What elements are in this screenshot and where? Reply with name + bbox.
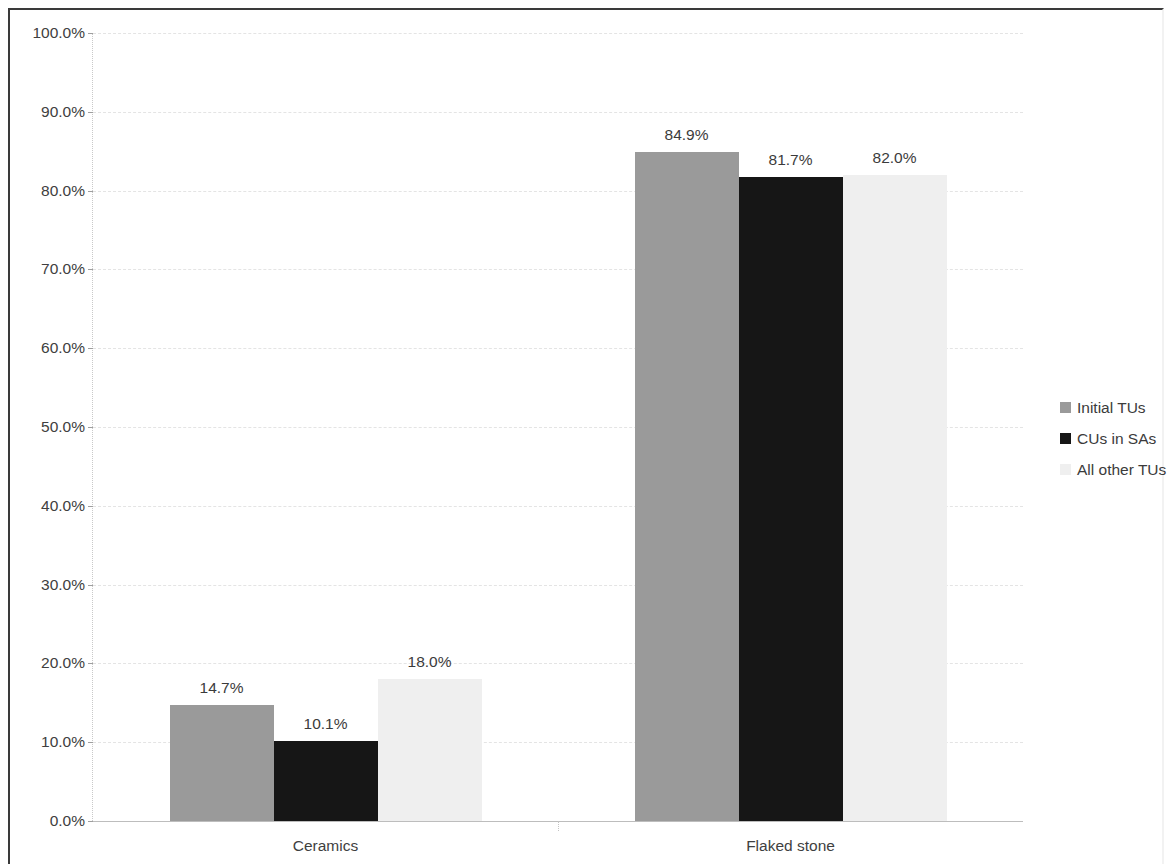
y-axis-tick-label: 40.0%: [0, 497, 85, 515]
bar-value-label: 82.0%: [873, 149, 917, 167]
bar-ceramics-all-other-tus[interactable]: [378, 679, 482, 821]
legend-item-label: Initial TUs: [1077, 399, 1146, 417]
legend-swatch-icon: [1060, 402, 1071, 413]
y-axis-tick-label: 100.0%: [0, 24, 85, 42]
bar-value-label: 10.1%: [304, 715, 348, 733]
y-axis-tick-label: 70.0%: [0, 260, 85, 278]
y-axis-tick-label: 60.0%: [0, 339, 85, 357]
y-axis-tick-label: 0.0%: [0, 812, 85, 830]
legend-item-cus-in-sas[interactable]: CUs in SAs: [1060, 423, 1172, 454]
y-axis-tick-label: 30.0%: [0, 576, 85, 594]
bar-ceramics-initial-tus[interactable]: [170, 705, 274, 821]
gridline: [93, 33, 1023, 34]
bar-value-label: 14.7%: [200, 679, 244, 697]
bar-flaked-stone-initial-tus[interactable]: [635, 152, 739, 821]
y-axis-tick-label: 20.0%: [0, 654, 85, 672]
bar-value-label: 81.7%: [769, 151, 813, 169]
y-axis-tick-label: 50.0%: [0, 418, 85, 436]
legend-item-label: All other TUs: [1077, 461, 1166, 479]
y-axis-tick-label: 10.0%: [0, 733, 85, 751]
legend-item-all-other-tus[interactable]: All other TUs: [1060, 454, 1172, 485]
legend-swatch-icon: [1060, 464, 1071, 475]
plot-area: 14.7%10.1%18.0%84.9%81.7%82.0%: [93, 33, 1023, 821]
bar-value-label: 84.9%: [665, 126, 709, 144]
y-axis-tick-label: 80.0%: [0, 182, 85, 200]
legend-item-initial-tus[interactable]: Initial TUs: [1060, 392, 1172, 423]
bar-flaked-stone-all-other-tus[interactable]: [843, 175, 947, 821]
legend-swatch-icon: [1060, 433, 1071, 444]
y-axis-tick-label: 90.0%: [0, 103, 85, 121]
bar-flaked-stone-cus-in-sas[interactable]: [739, 177, 843, 821]
x-axis-category-label: Ceramics: [293, 837, 358, 855]
gridline: [93, 112, 1023, 113]
x-axis-category-label: Flaked stone: [746, 837, 835, 855]
chart-legend: Initial TUsCUs in SAsAll other TUs: [1060, 392, 1172, 485]
bar-ceramics-cus-in-sas[interactable]: [274, 741, 378, 821]
legend-item-label: CUs in SAs: [1077, 430, 1156, 448]
x-axis-group-divider: [558, 821, 559, 831]
bar-value-label: 18.0%: [408, 653, 452, 671]
